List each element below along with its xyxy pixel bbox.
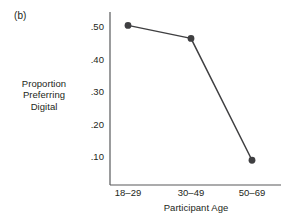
- data-point-30-49: [188, 35, 195, 42]
- series-markers: [125, 22, 256, 164]
- x-tick-label-0: 18–29: [98, 187, 158, 199]
- figure-panel-b: (b) Proportion Preferring Digital .50 .4…: [0, 0, 289, 222]
- x-tick-label-2: 50–69: [222, 187, 282, 199]
- data-point-18-29: [125, 22, 132, 29]
- series-line-proportion: [128, 25, 252, 160]
- x-tick-label-1: 30–49: [161, 187, 221, 199]
- data-point-50-69: [249, 157, 256, 164]
- axis-spines: [110, 12, 281, 185]
- x-axis-tick-labels: 18–29 30–49 50–69: [0, 187, 289, 201]
- x-axis-title: Participant Age: [110, 202, 282, 214]
